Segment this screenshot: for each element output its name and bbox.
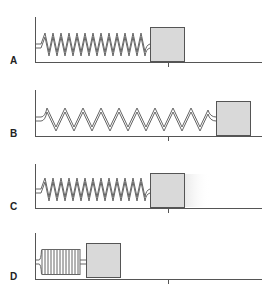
block [217, 102, 251, 136]
panel-label-b: B [10, 128, 17, 139]
block [151, 174, 185, 208]
spring [36, 108, 216, 131]
spring-mass-diagram: A B C D [0, 0, 273, 293]
panel-b: B [10, 90, 262, 141]
spring [36, 178, 150, 201]
panel-a: A [10, 17, 262, 67]
spring [36, 250, 86, 275]
panel-d: D [10, 233, 262, 284]
motion-blur [184, 174, 210, 207]
spring [36, 33, 150, 56]
panel-c: C [10, 164, 262, 213]
block [151, 28, 185, 62]
block [87, 244, 121, 278]
panel-label-c: C [10, 201, 17, 212]
panel-label-a: A [10, 55, 17, 66]
panel-label-d: D [10, 271, 17, 282]
